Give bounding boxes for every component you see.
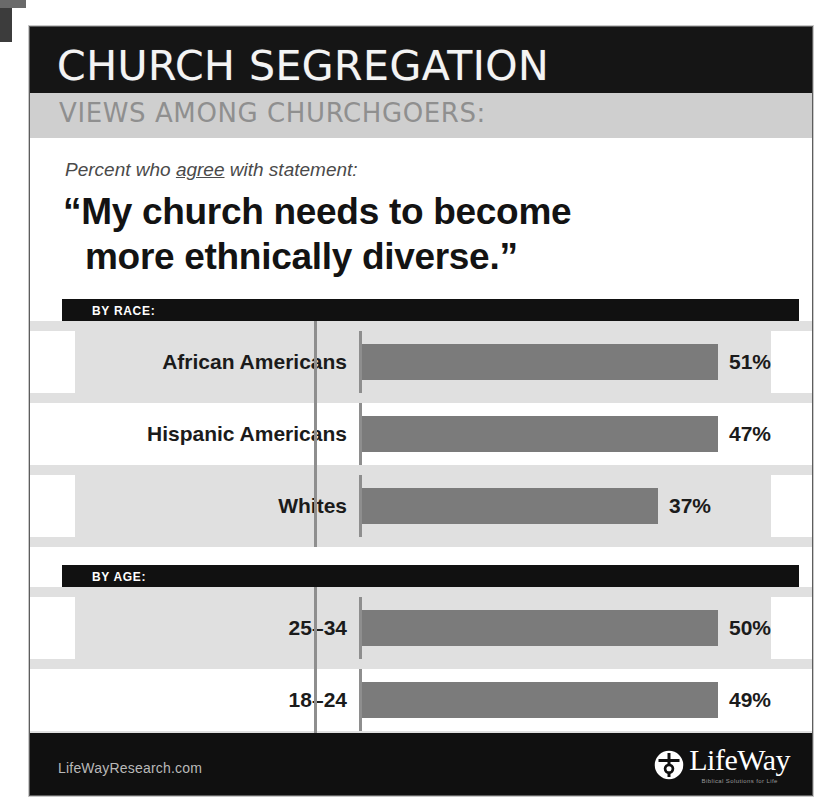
page-subtitle: VIEWS AMONG CHURCHGOERS: <box>59 100 486 126</box>
group-rows-by-race: African Americans 51% Hispanic Americans… <box>30 321 812 547</box>
section-header-by-age: BY AGE: <box>62 565 799 587</box>
table-row: Hispanic Americans 47% <box>75 403 771 465</box>
row-spacer <box>30 393 812 403</box>
row-bar-area: 47% <box>362 403 771 465</box>
lifeway-logo-tagline: Biblical Solutions for Life <box>689 778 790 784</box>
kicker-after: with statement: <box>225 159 358 180</box>
row-spacer <box>30 587 812 597</box>
section-spacer <box>30 547 812 565</box>
row-spacer <box>30 537 812 547</box>
kicker-before: Percent who <box>65 159 176 180</box>
row-spacer <box>30 321 812 331</box>
statement-kicker: Percent who agree with statement: <box>65 159 358 181</box>
bar <box>362 682 718 718</box>
bar <box>362 488 658 524</box>
lifeway-circle-mark-icon <box>654 750 684 780</box>
bar-value: 37% <box>669 494 711 518</box>
table-row: 18–24 49% <box>75 669 771 731</box>
bar-chart: BY RACE: African Americans 51% Hispanic … <box>30 299 812 796</box>
quote-line-1: “My church needs to become <box>63 191 571 232</box>
axis-baseline <box>314 321 317 547</box>
bar <box>362 344 718 380</box>
statement-quote: “My church needs to become more ethnical… <box>63 189 763 279</box>
bar <box>362 416 718 452</box>
row-spacer <box>30 465 812 475</box>
bar-value: 51% <box>729 350 771 374</box>
footer-url[interactable]: LifeWayResearch.com <box>58 760 202 776</box>
scan-top-artifact <box>0 0 26 8</box>
bar-value: 49% <box>729 688 771 712</box>
footer-bar: LifeWayResearch.com LifeWay Biblical Sol… <box>30 733 812 795</box>
section-header-by-race-label: BY RACE: <box>92 304 155 318</box>
lifeway-logo-text: LifeWay <box>689 745 790 775</box>
section-header-by-race: BY RACE: <box>62 299 799 321</box>
bar-value: 50% <box>729 616 771 640</box>
row-label: Whites <box>75 475 347 537</box>
section-header-by-age-label: BY AGE: <box>92 570 146 584</box>
table-row: African Americans 51% <box>75 331 771 393</box>
row-label: African Americans <box>75 331 347 393</box>
row-bar-area: 50% <box>362 597 771 659</box>
row-label: 18–24 <box>75 669 347 731</box>
kicker-emphasis: agree <box>176 159 225 180</box>
row-spacer <box>30 659 812 669</box>
lifeway-wordmark: LifeWay Biblical Solutions for Life <box>689 745 790 784</box>
page-title: CHURCH SEGREGATION <box>57 46 549 87</box>
table-row: 25–34 50% <box>75 597 771 659</box>
row-bar-area: 37% <box>362 475 771 537</box>
row-label: 25–34 <box>75 597 347 659</box>
bar-value: 47% <box>729 422 771 446</box>
infographic-card: CHURCH SEGREGATION VIEWS AMONG CHURCHGOE… <box>29 26 813 796</box>
quote-line-2: more ethnically diverse.” <box>63 234 763 279</box>
row-label: Hispanic Americans <box>75 403 347 465</box>
bar <box>362 610 718 646</box>
row-bar-area: 51% <box>362 331 771 393</box>
row-bar-area: 49% <box>362 669 771 731</box>
table-row: Whites 37% <box>75 475 771 537</box>
lifeway-logo: LifeWay Biblical Solutions for Life <box>654 745 790 784</box>
